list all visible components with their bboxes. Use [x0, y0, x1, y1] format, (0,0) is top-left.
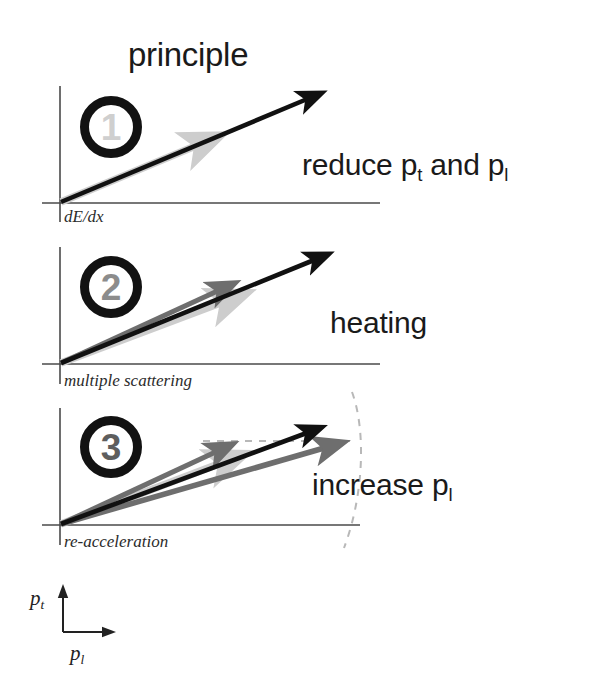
- panel-2-step-badge: 2: [80, 256, 142, 318]
- panel-1-step-number: 1: [101, 109, 122, 146]
- panel-3-annotation: increase pl: [312, 468, 452, 502]
- panel-1-annotation: reduce pt and pl: [302, 148, 508, 182]
- panel-1-caption: dE/dx: [64, 207, 104, 227]
- key-vertical-axis-label: pt: [30, 586, 44, 611]
- panel-1-step-badge: 1: [80, 96, 142, 158]
- panel-2-step-number: 2: [101, 269, 122, 306]
- key-vertical-axis-subscript: t: [41, 597, 45, 612]
- panel-1-annotation-mid: and p: [422, 148, 504, 181]
- panel-1-annotation-text: reduce p: [302, 148, 417, 181]
- panel-3-step-badge: 3: [80, 416, 142, 478]
- panel-3-step-number: 3: [101, 429, 122, 466]
- panel-1-annotation-sub-l: l: [504, 164, 508, 185]
- panel-2-caption: multiple scattering: [64, 371, 192, 391]
- panel-3-caption: re-acceleration: [64, 532, 168, 552]
- panel-2-annotation: heating: [330, 306, 427, 340]
- axis-key-graphics: [63, 590, 110, 632]
- key-vertical-axis-symbol: p: [30, 586, 41, 610]
- panel-3-annotation-sub-l: l: [448, 484, 452, 505]
- panel-3-annotation-text: increase p: [312, 468, 448, 501]
- key-horizontal-axis-symbol: p: [70, 641, 81, 665]
- key-horizontal-axis-subscript: l: [81, 652, 85, 667]
- panel-1-annotation-sub-t: t: [417, 164, 422, 185]
- figure-canvas: principle: [0, 0, 615, 685]
- panel-2-annotation-text: heating: [330, 306, 427, 339]
- key-horizontal-axis-label: pl: [70, 641, 84, 666]
